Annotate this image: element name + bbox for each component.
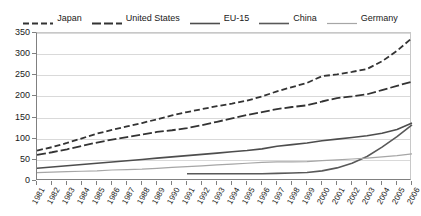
x-tick-label: 1986 <box>105 186 122 206</box>
x-tick-label: 1988 <box>135 186 152 206</box>
x-tick-mark <box>261 181 262 185</box>
x-tick-mark <box>186 181 187 185</box>
long-dash-line-swatch <box>92 14 122 23</box>
x-tick-label: 1990 <box>165 186 182 206</box>
x-tick-mark <box>156 181 157 185</box>
x-tick-label: 2006 <box>405 186 421 206</box>
x-tick-mark <box>276 181 277 185</box>
x-tick-label: 1994 <box>225 186 242 206</box>
x-tick-mark <box>321 181 322 185</box>
x-tick-label: 1995 <box>240 186 257 206</box>
y-tick-label: 350 <box>15 27 30 37</box>
plot-area <box>36 32 411 180</box>
legend-label: Germany <box>361 14 398 23</box>
x-tick-label: 1989 <box>150 186 167 206</box>
x-tick-mark <box>246 181 247 185</box>
x-tick-label: 1984 <box>75 186 92 206</box>
legend-item-germany[interactable]: Germany <box>327 14 398 23</box>
series-line-united-states <box>37 82 412 155</box>
x-tick-mark <box>81 181 82 185</box>
solid-line-swatch <box>259 14 289 23</box>
x-tick-mark <box>96 181 97 185</box>
x-tick-label: 1998 <box>285 186 302 206</box>
x-tick-label: 1999 <box>300 186 317 206</box>
chart-legend: JapanUnited StatesEU-15ChinaGermany <box>0 10 421 26</box>
x-tick-mark <box>291 181 292 185</box>
x-tick-label: 2000 <box>315 186 332 206</box>
x-tick-mark <box>216 181 217 185</box>
y-tick-label: 200 <box>15 90 30 100</box>
x-tick-label: 1993 <box>210 186 227 206</box>
legend-label: Japan <box>57 14 82 23</box>
legend-item-eu-15[interactable]: EU-15 <box>190 14 250 23</box>
x-tick-label: 2004 <box>375 186 392 206</box>
x-tick-label: 2005 <box>390 186 407 206</box>
y-tick-label: 250 <box>15 69 30 79</box>
dashed-line-swatch <box>23 14 53 23</box>
x-tick-mark <box>366 181 367 185</box>
line-chart: JapanUnited StatesEU-15ChinaGermany 0501… <box>0 0 421 216</box>
y-axis: 050100150200250300350 <box>0 32 36 180</box>
y-tick-label: 300 <box>15 48 30 58</box>
x-tick-mark <box>36 181 37 185</box>
y-tick-label: 0 <box>25 175 30 185</box>
y-tick-label: 100 <box>15 133 30 143</box>
x-tick-label: 2003 <box>360 186 377 206</box>
y-tick-label: 150 <box>15 112 30 122</box>
x-axis: 1981198219831984198519861987198819891990… <box>36 181 411 216</box>
x-tick-mark <box>396 181 397 185</box>
x-tick-mark <box>381 181 382 185</box>
x-tick-label: 2001 <box>330 186 347 206</box>
series-line-japan <box>37 38 412 150</box>
x-tick-label: 1987 <box>120 186 137 206</box>
x-tick-label: 1983 <box>60 186 77 206</box>
x-tick-label: 1991 <box>180 186 197 206</box>
light-solid-line-swatch <box>327 14 357 23</box>
x-tick-mark <box>306 181 307 185</box>
x-tick-mark <box>141 181 142 185</box>
x-tick-label: 1982 <box>45 186 62 206</box>
x-tick-mark <box>111 181 112 185</box>
x-tick-mark <box>126 181 127 185</box>
x-tick-mark <box>411 181 412 185</box>
series-line-china <box>187 125 412 174</box>
legend-label: EU-15 <box>224 14 250 23</box>
solid-line-swatch <box>190 14 220 23</box>
legend-item-japan[interactable]: Japan <box>23 14 82 23</box>
x-tick-label: 1997 <box>270 186 287 206</box>
x-tick-label: 1996 <box>255 186 272 206</box>
legend-item-china[interactable]: China <box>259 14 317 23</box>
series-layer <box>37 33 412 181</box>
x-tick-mark <box>231 181 232 185</box>
x-tick-mark <box>66 181 67 185</box>
x-tick-label: 2002 <box>345 186 362 206</box>
x-tick-mark <box>351 181 352 185</box>
x-tick-mark <box>201 181 202 185</box>
x-tick-label: 1992 <box>195 186 212 206</box>
legend-label: China <box>293 14 317 23</box>
x-tick-label: 1981 <box>30 186 47 206</box>
legend-label: United States <box>126 14 180 23</box>
legend-item-united-states[interactable]: United States <box>92 14 180 23</box>
y-tick-label: 50 <box>20 154 30 164</box>
x-tick-mark <box>51 181 52 185</box>
x-tick-mark <box>336 181 337 185</box>
x-tick-label: 1985 <box>90 186 107 206</box>
x-tick-mark <box>171 181 172 185</box>
